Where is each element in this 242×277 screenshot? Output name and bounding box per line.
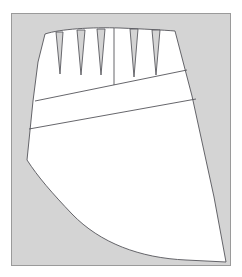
figure-root: Skirt pattern draft with waist darts and… [0, 0, 242, 277]
pattern-drawing [0, 0, 242, 277]
